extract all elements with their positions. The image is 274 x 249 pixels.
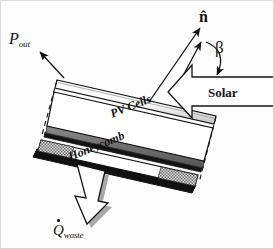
power-out-subscript: out xyxy=(19,39,30,49)
solar-label: Solar xyxy=(208,86,238,99)
power-out-label: Pout xyxy=(9,31,30,49)
diagram-canvas xyxy=(1,1,274,249)
normal-vector-label: n̂ xyxy=(199,9,208,25)
tilt-angle-label: β xyxy=(215,39,224,56)
pv-panel-diagram: Pout n̂ β Solar Qwaste PV Cells Honeycom… xyxy=(0,0,274,249)
power-out-arrow xyxy=(40,52,64,78)
waste-heat-symbol: Q xyxy=(53,223,64,238)
waste-heat-subscript: waste xyxy=(64,230,84,240)
waste-heat-label: Qwaste xyxy=(53,223,83,240)
power-out-symbol: P xyxy=(9,30,19,47)
